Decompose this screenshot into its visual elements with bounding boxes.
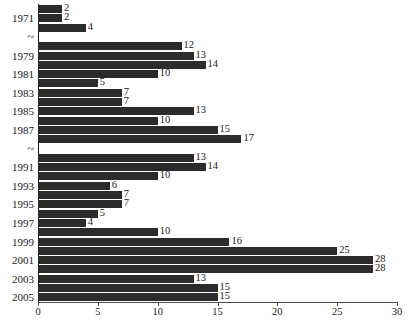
bar [38,284,218,292]
bar-value-label: 4 [88,216,93,227]
bar-value-label: 25 [339,244,350,255]
bar [38,14,62,22]
bar [38,135,241,143]
bar [38,107,194,115]
bar-value-label: 28 [375,262,386,273]
bar-value-label: 7 [124,95,129,106]
x-axis-tick-label: 30 [392,307,403,318]
bar-value-label: 12 [184,39,195,50]
bar [38,247,337,255]
bar [38,98,122,106]
bar [38,79,98,87]
bar [38,126,218,134]
bar-value-label: 16 [231,235,242,246]
bar [38,52,194,60]
bar [38,293,218,301]
x-axis-tick-label: 5 [95,307,100,318]
bar [38,172,158,180]
bar [38,154,194,162]
bar-value-label: 10 [160,169,171,180]
bar-row: 200515 [0,292,417,302]
bar-value-label: 13 [196,104,207,115]
bar-value-label: 2 [64,11,69,22]
bar-value-label: 13 [196,49,207,60]
bar [38,163,206,171]
bar [38,89,122,97]
bar [38,228,158,236]
bar-value-label: 15 [220,123,231,134]
x-axis-tick-label: 20 [272,307,283,318]
bar [38,200,122,208]
x-axis-tick-label: 0 [35,307,40,318]
bar [38,182,110,190]
bar-value-label: 10 [160,114,171,125]
bar [38,219,86,227]
bar-value-label: 14 [208,160,219,171]
bar [38,42,182,50]
bar [38,70,158,78]
bar-value-label: 5 [100,207,105,218]
bar [38,5,62,13]
bar [38,117,158,125]
bar [38,275,194,283]
bar-value-label: 14 [208,58,219,69]
bar-value-label: 4 [88,21,93,32]
bar-chart: 2197124~12197913141981105198377198513101… [0,0,417,326]
bar-value-label: 6 [112,179,117,190]
bar-value-label: 5 [100,76,105,87]
bar-value-label: 7 [124,197,129,208]
bar-value-label: 13 [196,151,207,162]
y-axis-label: 2005 [0,292,34,302]
bar-value-label: 10 [160,67,171,78]
bar [38,256,373,264]
x-axis-tick-label: 15 [212,307,223,318]
bar-value-label: 13 [196,272,207,283]
bar-value-label: 15 [220,290,231,301]
bar [38,191,122,199]
bar-value-label: 10 [160,225,171,236]
bar [38,61,206,69]
bar [38,24,86,32]
bar-value-label: 17 [243,132,254,143]
x-axis-tick-label: 25 [332,307,343,318]
bar [38,238,229,246]
x-axis-tick-label: 10 [152,307,163,318]
